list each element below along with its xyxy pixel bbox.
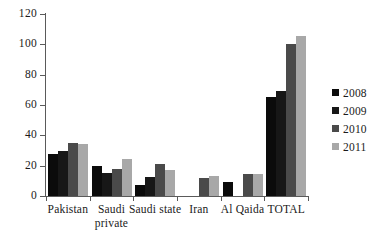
bar-2008 bbox=[92, 166, 102, 196]
bar-2008 bbox=[223, 182, 233, 196]
bar-2010 bbox=[68, 143, 78, 196]
bar-chart: 020406080100120 PakistanSaudi privateSau… bbox=[0, 0, 380, 237]
legend-item-2009: 2009 bbox=[332, 102, 380, 119]
legend-label: 2008 bbox=[343, 87, 367, 99]
bar-2008 bbox=[266, 97, 276, 196]
x-axis-tick bbox=[221, 196, 222, 201]
bar-2011 bbox=[296, 36, 306, 196]
x-axis-tick bbox=[133, 196, 134, 201]
legend-swatch-icon bbox=[332, 89, 339, 96]
y-axis-tick-label: 100 bbox=[0, 38, 37, 49]
bar-group bbox=[223, 14, 263, 196]
y-axis-tick-label: 60 bbox=[0, 99, 37, 110]
bar-group bbox=[266, 14, 306, 196]
y-axis-tick-label: 40 bbox=[0, 129, 37, 140]
legend-item-2008: 2008 bbox=[332, 84, 380, 101]
bar-2010 bbox=[243, 174, 253, 196]
bar-2011 bbox=[78, 144, 88, 196]
bar-2009 bbox=[145, 177, 155, 196]
bar-group bbox=[135, 14, 175, 196]
y-axis-tick-label: 20 bbox=[0, 160, 37, 171]
legend-label: 2011 bbox=[343, 141, 366, 153]
bar-group bbox=[92, 14, 132, 196]
bar-2010 bbox=[199, 178, 209, 196]
x-axis-category-label: TOTAL bbox=[258, 203, 314, 217]
bar-2009 bbox=[276, 91, 286, 196]
x-axis-tick bbox=[90, 196, 91, 201]
bar-2011 bbox=[122, 159, 132, 196]
bar-2008 bbox=[48, 154, 58, 196]
legend-swatch-icon bbox=[332, 143, 339, 150]
legend-swatch-icon bbox=[332, 125, 339, 132]
bar-2010 bbox=[286, 44, 296, 196]
bar-2010 bbox=[155, 164, 165, 196]
plot-area bbox=[46, 14, 308, 196]
legend-item-2011: 2011 bbox=[332, 138, 380, 155]
legend: 2008200920102011 bbox=[332, 84, 380, 156]
x-axis-tick bbox=[46, 196, 47, 201]
bar-2011 bbox=[253, 174, 263, 196]
y-axis-tick-label: 80 bbox=[0, 69, 37, 80]
bar-2009 bbox=[58, 151, 68, 197]
bar-2011 bbox=[209, 176, 219, 196]
bar-2009 bbox=[102, 173, 112, 196]
x-axis-tick bbox=[264, 196, 265, 201]
bar-group bbox=[48, 14, 88, 196]
y-axis-tick-label: 120 bbox=[0, 8, 37, 19]
bar-2011 bbox=[165, 170, 175, 196]
legend-label: 2009 bbox=[343, 105, 367, 117]
bar-2008 bbox=[135, 185, 145, 196]
legend-label: 2010 bbox=[343, 123, 367, 135]
bar-group bbox=[179, 14, 219, 196]
legend-swatch-icon bbox=[332, 107, 339, 114]
x-axis-tick bbox=[177, 196, 178, 201]
legend-item-2010: 2010 bbox=[332, 120, 380, 137]
x-axis-tick bbox=[308, 196, 309, 201]
bar-2010 bbox=[112, 169, 122, 196]
y-axis-tick-label: 0 bbox=[0, 190, 37, 201]
